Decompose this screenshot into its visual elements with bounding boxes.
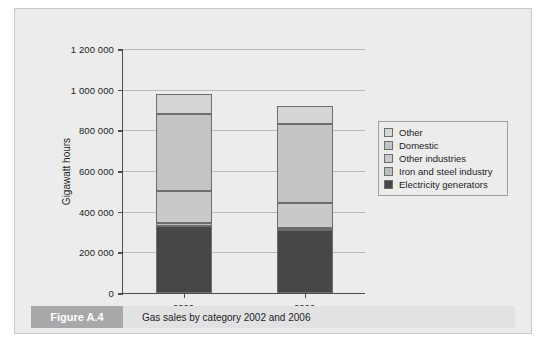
y-axis-tick-label: 1 000 000 [71,84,114,95]
figure-caption-bar: Figure A.4 Gas sales by category 2002 an… [31,306,515,328]
chart-plot-area: 0200 000400 000600 000800 0001 000 0001 … [122,49,365,294]
figure-number-tag: Figure A.4 [31,306,123,328]
legend-item[interactable]: Other [384,127,501,138]
y-axis-tick [118,212,123,214]
figure-caption-text: Gas sales by category 2002 and 2006 [123,306,310,328]
legend-item[interactable]: Electricity generators [384,179,501,190]
legend-item[interactable]: Domestic [384,140,501,151]
figure-panel: Gigawatt hours 0200 000400 000600 000800… [14,8,532,334]
y-axis-tick [118,49,123,51]
x-axis-tick [305,293,307,298]
chart-legend: OtherDomesticOther industriesIron and st… [378,121,508,196]
y-axis-tick-label: 400 000 [79,206,114,217]
legend-swatch-icon [384,154,393,163]
y-axis-tick [118,171,123,173]
legend-swatch-icon [384,180,393,189]
legend-swatch-icon [384,128,393,137]
bar-segment[interactable] [277,228,333,230]
y-axis-tick [118,130,123,132]
bar-group[interactable]: 2002 [156,49,212,293]
y-axis-tick-label: 800 000 [79,125,114,136]
x-axis-tick [184,293,186,298]
y-axis-tick-label: 0 [109,288,114,299]
legend-item-label: Electricity generators [399,179,488,190]
bar-segment[interactable] [277,124,333,202]
legend-item-label: Other industries [399,153,466,164]
y-axis-tick [118,293,123,295]
y-axis-tick-label: 1 200 000 [71,44,114,55]
bar-group[interactable]: 2006 [277,49,333,293]
y-axis-tick-label: 600 000 [79,166,114,177]
y-axis-tick [118,252,123,254]
y-axis-tick [118,90,123,92]
bar-segment[interactable] [277,230,333,293]
legend-item-label: Domestic [399,140,439,151]
legend-swatch-icon [384,167,393,176]
bar-segment[interactable] [277,106,333,124]
bar-segment[interactable] [277,203,333,228]
legend-item-label: Iron and steel industry [399,166,492,177]
bar-segment[interactable] [156,226,212,293]
bar-segment[interactable] [156,191,212,223]
legend-item-label: Other [399,127,423,138]
legend-swatch-icon [384,141,393,150]
bar-segment[interactable] [156,114,212,191]
bar-segment[interactable] [156,223,212,226]
legend-item[interactable]: Other industries [384,153,501,164]
bar-segment[interactable] [156,94,212,114]
y-axis-tick-label: 200 000 [79,247,114,258]
legend-item[interactable]: Iron and steel industry [384,166,501,177]
y-axis-title-label: Gigawatt hours [62,138,73,205]
